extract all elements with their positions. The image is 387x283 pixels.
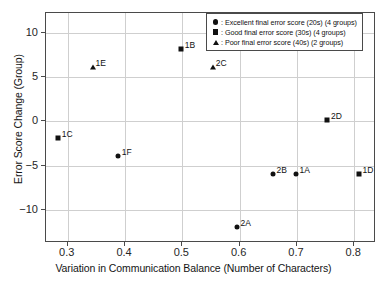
y-axis-tick: [41, 76, 45, 77]
data-point: 2B: [271, 171, 276, 176]
data-point: 1B: [179, 47, 184, 52]
marker-circle-icon: [234, 224, 239, 229]
x-axis-tick-label: 0.8: [346, 246, 361, 258]
y-axis-tick-label: 0: [32, 114, 38, 126]
data-point: 2D: [325, 118, 330, 123]
data-point-label: 1E: [96, 58, 106, 68]
y-axis-tick-label: 10: [26, 26, 38, 38]
data-point-label: 2B: [277, 164, 287, 174]
legend-item-label: : Good final error score (30s) (4 groups…: [221, 28, 346, 37]
y-axis-tick: [41, 32, 45, 33]
gridline-horizontal: [46, 210, 374, 211]
y-axis-tick-label: −10: [19, 203, 38, 215]
legend-triangle-icon: [211, 40, 220, 45]
data-point: 2C: [210, 65, 216, 70]
gridline-horizontal: [46, 77, 374, 78]
legend-circle-icon: [211, 19, 220, 24]
data-point-label: 2D: [331, 111, 342, 121]
data-point-label: 1D: [362, 164, 373, 174]
legend-item-label: : Poor final error score (40s) (2 groups…: [221, 38, 343, 47]
legend-item-label: : Excellent final error score (20s) (4 g…: [221, 18, 357, 27]
y-axis-tick-label: 5: [32, 70, 38, 82]
x-axis-label: Variation in Communication Balance (Numb…: [0, 262, 387, 274]
data-point-label: 1F: [122, 146, 132, 156]
marker-circle-icon: [293, 171, 298, 176]
marker-circle-icon: [116, 153, 121, 158]
y-axis-tick: [41, 209, 45, 210]
data-point-label: 2C: [216, 58, 227, 68]
marker-square-icon: [56, 136, 61, 141]
data-point-label: 2A: [240, 217, 250, 227]
data-point: 2A: [234, 224, 239, 229]
gridline-horizontal: [46, 166, 374, 167]
y-axis-label: Error Score Change (Group): [12, 9, 24, 229]
y-axis-tick: [41, 120, 45, 121]
data-point: 1C: [56, 136, 61, 141]
marker-square-icon: [179, 47, 184, 52]
gridline-vertical: [68, 13, 69, 241]
x-axis-tick-label: 0.6: [231, 246, 246, 258]
marker-square-icon: [356, 171, 361, 176]
scatter-chart-figure: 1A1F2A2B1B1C1D2D1E2C Variation in Commun…: [0, 0, 387, 283]
gridline-vertical: [125, 13, 126, 241]
data-point-label: 1A: [299, 164, 309, 174]
data-point: 1D: [356, 171, 361, 176]
legend-item: : Good final error score (30s) (4 groups…: [211, 27, 357, 37]
legend-square-icon: [211, 29, 220, 34]
x-axis-tick-label: 0.3: [59, 246, 74, 258]
data-point: 1F: [116, 153, 121, 158]
y-axis-tick: [41, 165, 45, 166]
legend-item: : Excellent final error score (20s) (4 g…: [211, 17, 357, 27]
legend-item: : Poor final error score (40s) (2 groups…: [211, 37, 357, 47]
chart-legend: : Excellent final error score (20s) (4 g…: [206, 13, 363, 51]
x-axis-tick-label: 0.5: [174, 246, 189, 258]
x-axis-tick-label: 0.4: [116, 246, 131, 258]
y-axis-tick-label: −5: [25, 159, 38, 171]
marker-circle-icon: [271, 171, 276, 176]
data-point: 1E: [90, 65, 96, 70]
x-axis-tick-label: 0.7: [288, 246, 303, 258]
data-point: 1A: [293, 171, 298, 176]
marker-square-icon: [325, 118, 330, 123]
data-point-label: 1B: [185, 40, 195, 50]
data-point-label: 1C: [62, 129, 73, 139]
